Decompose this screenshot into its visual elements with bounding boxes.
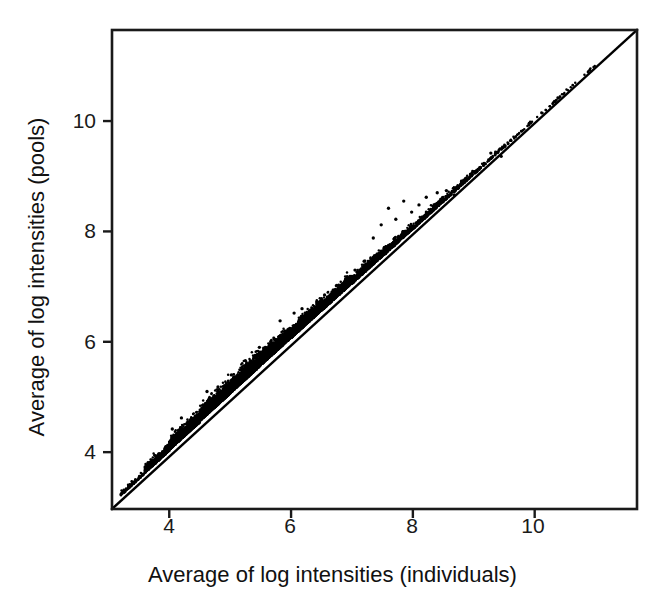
- outlier-point: [306, 314, 309, 317]
- x-tick-label-6: 6: [284, 514, 296, 538]
- outlier-point: [327, 297, 330, 300]
- x-tick-label-8: 8: [406, 514, 418, 538]
- outlier-point: [489, 151, 492, 154]
- outlier-point: [283, 331, 286, 334]
- outlier-point: [244, 359, 247, 362]
- outlier-point: [258, 346, 261, 349]
- outlier-point: [278, 319, 281, 322]
- outlier-point: [353, 268, 356, 271]
- x-tick-label-10: 10: [521, 514, 544, 538]
- outlier-point: [425, 196, 428, 199]
- outlier-point: [436, 191, 439, 194]
- outlier-point: [344, 277, 347, 280]
- outlier-point: [335, 284, 338, 287]
- outlier-point: [323, 293, 326, 296]
- x-tick-label-4: 4: [163, 514, 175, 538]
- y-tick-label-10: 10: [73, 109, 96, 133]
- outlier-point: [402, 199, 405, 202]
- y-axis-title: Average of log intensities (pools): [24, 57, 50, 497]
- outlier-point: [205, 390, 208, 393]
- x-axis-title: Average of log intensities (individuals): [0, 562, 665, 588]
- outlier-point: [410, 210, 413, 213]
- outlier-point: [292, 311, 295, 314]
- outlier-point: [387, 207, 390, 210]
- outlier-point: [362, 260, 365, 263]
- y-tick-label-6: 6: [84, 330, 96, 354]
- outlier-point: [417, 203, 420, 206]
- outlier-point: [445, 189, 448, 192]
- outlier-point: [315, 300, 318, 303]
- plot-canvas: [0, 0, 665, 614]
- outlier-point: [380, 223, 383, 226]
- outlier-point: [394, 218, 397, 221]
- outlier-point: [372, 236, 375, 239]
- outlier-point: [171, 427, 174, 430]
- outlier-point: [216, 385, 219, 388]
- outlier-point: [230, 373, 233, 376]
- scatter-plot-figure: 4 6 8 10 4 6 8 10 Average of log intensi…: [0, 0, 665, 614]
- y-tick-label-4: 4: [84, 440, 96, 464]
- outlier-point: [180, 416, 183, 419]
- y-tick-label-8: 8: [84, 219, 96, 243]
- outlier-point: [300, 307, 303, 310]
